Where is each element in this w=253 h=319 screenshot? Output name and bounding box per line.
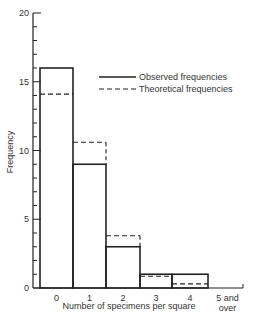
observed-bar: [73, 164, 106, 288]
theoretical-bars: [40, 94, 208, 284]
y-axis: 05101520: [19, 8, 41, 293]
observed-bar: [172, 274, 208, 288]
y-tick-label: 20: [19, 8, 29, 18]
y-tick-label: 5: [24, 214, 29, 224]
histogram-chart: 05101520 012345 andover Observed frequen…: [0, 0, 253, 319]
legend: Observed frequencies Theoretical frequen…: [99, 72, 233, 94]
observed-bar: [40, 68, 73, 288]
observed-bars: [40, 68, 208, 288]
y-tick-label: 10: [19, 146, 29, 156]
x-axis-title: Number of specimens per square: [62, 301, 195, 311]
x-tick-label: over: [219, 303, 237, 313]
x-tick-label: 0: [54, 293, 59, 303]
legend-observed-label: Observed frequencies: [139, 72, 228, 82]
legend-theoretical-label: Theoretical frequencies: [139, 84, 233, 94]
y-axis-title: Frequency: [5, 130, 15, 173]
observed-bar: [106, 247, 140, 288]
x-tick-label: 5 and: [216, 293, 239, 303]
y-tick-label: 0: [24, 283, 29, 293]
y-tick-label: 15: [19, 77, 29, 87]
